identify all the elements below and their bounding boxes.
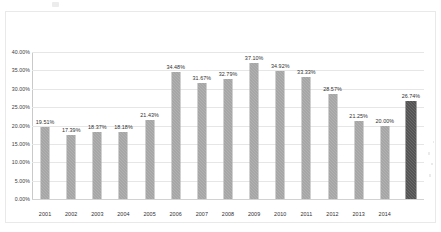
bar[interactable] bbox=[197, 83, 206, 199]
bar[interactable] bbox=[250, 63, 259, 199]
bar[interactable] bbox=[41, 127, 50, 199]
bar-chart-figure: 40.00%35.00%30.00%25.00%20.00%15.00%10.0… bbox=[0, 0, 441, 232]
bar[interactable] bbox=[276, 71, 285, 199]
bar-highlighted[interactable] bbox=[405, 101, 416, 199]
scan-artifact bbox=[433, 141, 434, 143]
bar[interactable] bbox=[171, 72, 180, 199]
y-tick-label: 35.00% bbox=[0, 67, 30, 73]
bar-slot: 18.18% bbox=[110, 52, 136, 199]
y-tick-label: 20.00% bbox=[0, 123, 30, 129]
bar[interactable] bbox=[380, 126, 389, 200]
x-tick-label: 2012 bbox=[319, 211, 345, 217]
bar-slot: 32.79% bbox=[215, 52, 241, 199]
y-axis-tick-labels: 40.00%35.00%30.00%25.00%20.00%15.00%10.0… bbox=[0, 0, 30, 232]
x-tick-label: 2007 bbox=[189, 211, 215, 217]
y-tick-label: 0.00% bbox=[0, 196, 30, 202]
bar-value-label: 18.37% bbox=[88, 124, 107, 130]
y-tick-label: 25.00% bbox=[0, 104, 30, 110]
bar-slot: 21.43% bbox=[137, 52, 163, 199]
bar-slot: 18.37% bbox=[84, 52, 110, 199]
bar[interactable] bbox=[145, 120, 154, 199]
bar-slot: 28.57% bbox=[319, 52, 345, 199]
bar-value-label: 28.57% bbox=[323, 86, 342, 92]
x-tick-label: 2006 bbox=[163, 211, 189, 217]
y-tick-label: 5.00% bbox=[0, 178, 30, 184]
bar-slot: 20.00% bbox=[372, 52, 398, 199]
x-tick-label: 2001 bbox=[32, 211, 58, 217]
bar-slot: 26.74% bbox=[398, 52, 424, 199]
x-tick-label: 2011 bbox=[293, 211, 319, 217]
bar-value-label: 32.79% bbox=[219, 71, 238, 77]
bar-slot: 34.48% bbox=[163, 52, 189, 199]
bar-slot: 33.33% bbox=[293, 52, 319, 199]
bar-slot: 21.25% bbox=[346, 52, 372, 199]
y-tick-label: 30.00% bbox=[0, 86, 30, 92]
bar-value-label: 21.25% bbox=[349, 113, 368, 119]
scan-artifact bbox=[428, 152, 430, 155]
bar-value-label: 20.00% bbox=[375, 118, 394, 124]
x-tick-label: 2002 bbox=[58, 211, 84, 217]
x-tick-label: 2010 bbox=[267, 211, 293, 217]
bar-value-label: 18.18% bbox=[114, 124, 133, 130]
x-tick-label: 2009 bbox=[241, 211, 267, 217]
scan-artifact bbox=[429, 174, 431, 177]
x-axis-tick-labels: 2001200220032004200520062007200820092010… bbox=[32, 203, 424, 217]
bar[interactable] bbox=[223, 79, 232, 200]
y-tick-label: 10.00% bbox=[0, 159, 30, 165]
bar[interactable] bbox=[67, 135, 76, 199]
bar[interactable] bbox=[302, 77, 311, 199]
bar-value-label: 21.43% bbox=[140, 112, 159, 118]
bar[interactable] bbox=[119, 132, 128, 199]
scan-artifact bbox=[431, 163, 433, 165]
bar-value-label: 19.51% bbox=[36, 119, 55, 125]
bar-value-label: 34.48% bbox=[166, 64, 185, 70]
plot-area: 19.51%17.39%18.37%18.18%21.43%34.48%31.6… bbox=[32, 52, 424, 199]
axis-baseline bbox=[32, 199, 424, 200]
bar-value-label: 17.39% bbox=[62, 127, 81, 133]
x-tick-label: 2005 bbox=[137, 211, 163, 217]
x-tick-label: 2013 bbox=[346, 211, 372, 217]
x-tick-label: 2003 bbox=[84, 211, 110, 217]
bar-value-label: 34.92% bbox=[271, 63, 290, 69]
x-tick-label: 2008 bbox=[215, 211, 241, 217]
bar-slot: 37.10% bbox=[241, 52, 267, 199]
bar-slot: 17.39% bbox=[58, 52, 84, 199]
bar-value-label: 33.33% bbox=[297, 69, 316, 75]
bar[interactable] bbox=[93, 132, 102, 200]
x-tick-label: 2014 bbox=[372, 211, 398, 217]
bar[interactable] bbox=[328, 94, 337, 199]
bar-slot: 19.51% bbox=[32, 52, 58, 199]
bar-value-label: 37.10% bbox=[245, 55, 264, 61]
bar-value-label: 26.74% bbox=[402, 93, 421, 99]
x-tick-label: 2004 bbox=[110, 211, 136, 217]
scan-artifact bbox=[52, 2, 59, 7]
bar[interactable] bbox=[354, 121, 363, 199]
bar-slot: 34.92% bbox=[267, 52, 293, 199]
bar-value-label: 31.67% bbox=[193, 75, 212, 81]
y-tick-label: 40.00% bbox=[0, 49, 30, 55]
bar-slot: 31.67% bbox=[189, 52, 215, 199]
y-tick-label: 15.00% bbox=[0, 141, 30, 147]
